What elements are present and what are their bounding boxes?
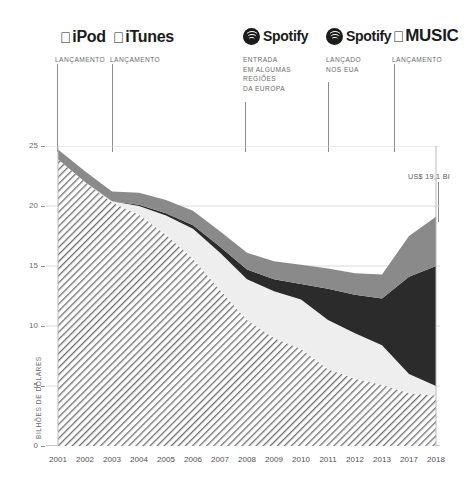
x-tick-label-2005: 2005 — [151, 455, 181, 464]
apple-icon:  — [393, 28, 404, 45]
apple-icon:  — [113, 29, 124, 46]
spotify-icon — [243, 28, 260, 45]
y-tick-label-25: 25 — [16, 141, 38, 150]
apple-icon:  — [60, 29, 71, 46]
plot-svg — [46, 146, 444, 446]
spotify-icon — [326, 28, 343, 45]
x-tick-label-2010: 2010 — [286, 455, 316, 464]
annotation-spotify-usa-launch: LANÇADO NOS EUA — [326, 55, 361, 74]
area-series-group — [58, 150, 436, 446]
y-tick-label-10: 10 — [16, 321, 38, 330]
annotation-line-spotify-europe — [245, 102, 246, 152]
x-tick-label-2011: 2011 — [313, 455, 343, 464]
y-tick-mark-15 — [41, 266, 45, 267]
annotation-ipod-launch: LANÇAMENTO — [55, 55, 105, 65]
plot-area: 0510152025 20012002200320042005200620072… — [46, 146, 444, 446]
x-tick-label-2004: 2004 — [124, 455, 154, 464]
annotation-line-spotify-usa-launch — [328, 82, 329, 152]
logo-apple-music: MUSIC — [393, 26, 459, 46]
logo-apple-music-label: MUSIC — [405, 26, 458, 45]
annotation-line-ipod-launch — [57, 64, 58, 152]
annotation-line-apple-music-launch — [394, 64, 395, 152]
logo-itunes-label: iTunes — [125, 28, 174, 45]
x-tick-label-2006: 2006 — [178, 455, 208, 464]
x-tick-label-2008: 2008 — [232, 455, 262, 464]
y-tick-label-15: 15 — [16, 261, 38, 270]
y-tick-mark-10 — [41, 326, 45, 327]
x-tick-label-2013: 2013 — [367, 455, 397, 464]
y-tick-mark-25 — [41, 146, 45, 147]
y-tick-mark-0 — [41, 446, 45, 447]
x-tick-label-2003: 2003 — [97, 455, 127, 464]
annotation-itunes-launch: LANÇAMENTO — [110, 55, 160, 65]
logo-ipod-label: iPod — [72, 28, 105, 45]
x-tick-label-2007: 2007 — [205, 455, 235, 464]
x-tick-label-2001: 2001 — [43, 455, 73, 464]
x-tick-label-2018: 2018 — [421, 455, 451, 464]
y-tick-mark-20 — [41, 206, 45, 207]
annotation-line-itunes-launch — [112, 64, 113, 152]
logo-spotify-europe-label: Spotify — [263, 28, 308, 44]
logo-spotify-europe: Spotify — [243, 28, 308, 45]
logo-spotify-usa-label: Spotify — [346, 28, 391, 44]
x-tick-label-2002: 2002 — [70, 455, 100, 464]
x-tick-label-2012: 2012 — [340, 455, 370, 464]
x-tick-label-2017: 2017 — [394, 455, 424, 464]
logo-itunes: iTunes — [113, 28, 174, 46]
x-tick-label-2009: 2009 — [259, 455, 289, 464]
y-tick-label-0: 0 — [16, 441, 38, 450]
logo-spotify-usa: Spotify — [326, 28, 391, 45]
annotation-apple-music-launch: LANÇAMENTO — [392, 55, 442, 65]
y-tick-label-20: 20 — [16, 201, 38, 210]
logo-ipod: iPod — [60, 28, 106, 46]
y-axis-title: BILHÕES DE DÓLARES — [35, 356, 42, 439]
annotation-spotify-europe: ENTRADA EM ALGUMAS REGIÕES DA EUROPA — [243, 55, 291, 93]
stacked-area-chart: iPod iTunes Spotify Spotify MUSIC LAN… — [0, 0, 476, 494]
